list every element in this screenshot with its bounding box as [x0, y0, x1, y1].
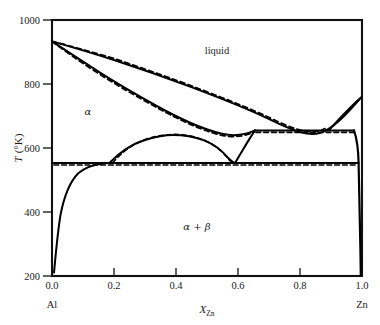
y-axis-title: T(°K)	[12, 133, 25, 162]
phase-diagram-svg: 1000 800 600 400 200 T(°K) 0.0 0.2 0.4 0	[0, 0, 380, 325]
region-label-liquid: liquid	[205, 45, 230, 56]
phase-diagram-figure: 1000 800 600 400 200 T(°K) 0.0 0.2 0.4 0	[0, 0, 380, 325]
y-tick-label-1000: 1000	[19, 15, 40, 26]
endmember-label-zn: Zn	[356, 299, 368, 310]
x-tick-label-0.0: 0.0	[45, 280, 58, 291]
y-axis-title-symbol: T	[12, 155, 24, 162]
plot-border	[52, 20, 362, 276]
svg-text:XZn: XZn	[198, 303, 214, 318]
x-axis-title-subscript: Zn	[206, 309, 215, 318]
y-tick-label-400: 400	[24, 207, 40, 218]
y-tick-label-200: 200	[24, 271, 40, 282]
x-tick-label-0.8: 0.8	[293, 280, 306, 291]
x-tick-label-0.2: 0.2	[107, 280, 120, 291]
region-label-alpha-plus-beta: α + β	[183, 221, 210, 232]
y-tick-label-600: 600	[24, 143, 40, 154]
plot-frame	[52, 20, 362, 276]
y-tick-label-800: 800	[24, 79, 40, 90]
region-label-alpha: α	[85, 106, 92, 117]
x-axis-title: XZn	[198, 303, 214, 318]
x-tick-label-0.4: 0.4	[169, 280, 183, 291]
x-tick-label-1.0: 1.0	[355, 280, 368, 291]
endmember-label-al: Al	[47, 299, 58, 310]
x-tick-label-0.6: 0.6	[231, 280, 244, 291]
y-axis-title-unit: (°K)	[12, 133, 25, 153]
svg-text:T(°K): T(°K)	[12, 133, 25, 162]
y-axis-ticks	[43, 20, 52, 276]
x-axis-tick-labels: 0.0 0.2 0.4 0.6 0.8 1.0	[45, 280, 368, 291]
